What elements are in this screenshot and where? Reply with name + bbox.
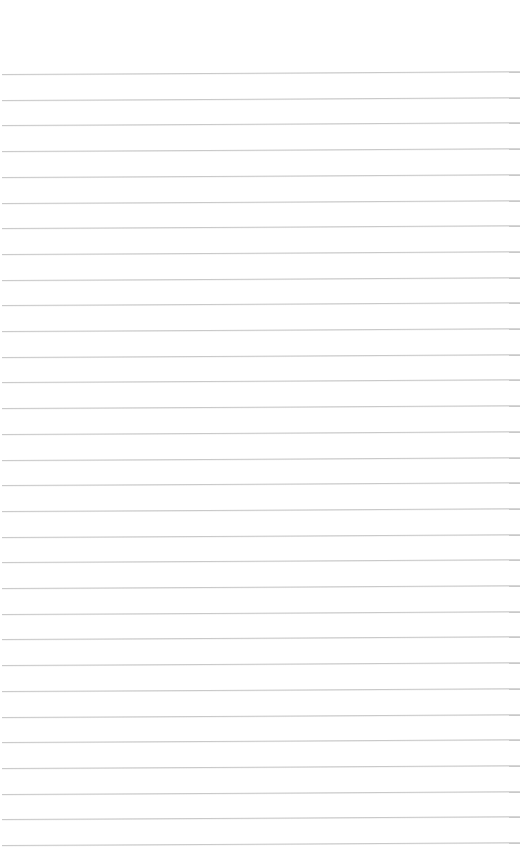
ruled-line: [2, 534, 520, 538]
ruled-line: [2, 174, 520, 178]
ruled-line: [2, 148, 520, 152]
ruled-line: [2, 585, 520, 589]
ruled-line: [2, 791, 520, 795]
ruled-line: [2, 405, 520, 409]
ruled-line: [2, 431, 520, 435]
ruled-line: [2, 714, 520, 718]
ruled-line: [2, 277, 520, 281]
ruled-line: [2, 508, 520, 512]
ruled-line: [2, 637, 520, 641]
ruled-line: [2, 380, 520, 384]
ruled-line: [2, 71, 520, 75]
ruled-line: [2, 328, 520, 332]
ruled-line: [2, 842, 520, 846]
ruled-line: [2, 688, 520, 692]
ruled-line: [2, 739, 520, 743]
ruled-line: [2, 251, 520, 255]
ruled-line: [2, 225, 520, 229]
ruled-line: [2, 97, 520, 101]
ruled-line: [2, 817, 520, 821]
ruled-line: [2, 482, 520, 486]
lined-paper-sheet: [0, 0, 523, 864]
ruled-line: [2, 123, 520, 127]
ruled-line: [2, 611, 520, 615]
ruled-line: [2, 303, 520, 307]
ruled-line: [2, 662, 520, 666]
ruled-line: [2, 354, 520, 358]
ruled-line: [2, 457, 520, 461]
ruled-line: [2, 560, 520, 564]
ruled-line: [2, 200, 520, 204]
ruled-line: [2, 765, 520, 769]
